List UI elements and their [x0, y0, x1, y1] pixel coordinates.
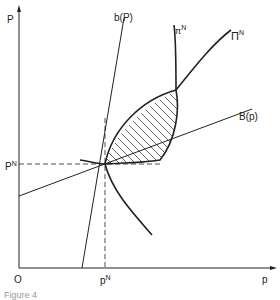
y-axis-label: P [7, 15, 14, 25]
curve-b-of-P [82, 18, 124, 268]
origin-label: O [14, 275, 22, 285]
equilibrium-y-label: PN [5, 160, 17, 172]
curve-pi-N-label-sup: N [181, 24, 186, 31]
curve-B-label: B(p) [239, 112, 258, 122]
equilibrium-x-label-sup: N [106, 274, 111, 281]
x-axis-label: p [262, 275, 268, 285]
equilibrium-y-label-sup: N [12, 160, 17, 167]
equilibrium-x-label: pN [100, 274, 111, 286]
equilibrium-y-label-base: P [5, 161, 12, 172]
curve-Pi-N-label: ΠN [231, 29, 244, 42]
curve-b-label: b(P) [114, 13, 133, 23]
y-axis [17, 5, 21, 268]
curve-pi-N [105, 25, 177, 235]
x-axis [19, 266, 277, 270]
curve-B-of-p [19, 109, 252, 196]
figure-caption: Figure 4 [4, 290, 37, 300]
curve-Pi-N-label-base: Π [231, 30, 239, 42]
curve-pi-N-label: πN [175, 24, 186, 36]
curve-Pi-N-label-sup: N [239, 29, 244, 36]
